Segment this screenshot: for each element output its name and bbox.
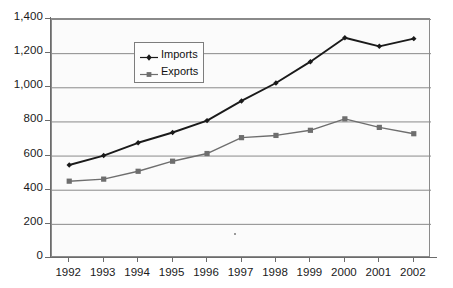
x-tick-mark — [241, 257, 242, 262]
stray-speck — [234, 233, 236, 235]
x-tick-mark — [68, 257, 69, 262]
x-tick-mark — [137, 257, 138, 262]
y-tick-mark — [45, 120, 51, 121]
x-tick-mark — [275, 257, 276, 262]
legend-item-exports[interactable]: Exports — [139, 63, 199, 80]
x-tick-mark — [103, 257, 104, 262]
x-tick-mark — [309, 257, 310, 262]
y-tick-mark — [45, 189, 51, 190]
legend-item-imports[interactable]: Imports — [139, 46, 199, 63]
chart-legend: Imports Exports — [134, 42, 204, 83]
y-tick-label: 400 — [0, 181, 43, 193]
y-tick-label: 1,200 — [0, 44, 43, 56]
x-tick-mark — [378, 257, 379, 262]
y-tick-mark — [45, 257, 51, 258]
y-tick-mark — [45, 86, 51, 87]
data-series-layer — [52, 19, 431, 258]
x-tick-mark — [172, 257, 173, 262]
x-tick-label: 2002 — [390, 266, 436, 278]
y-axis-line — [50, 17, 51, 258]
x-tick-mark — [206, 257, 207, 262]
x-tick-mark — [413, 257, 414, 262]
y-tick-label: 1,400 — [0, 10, 43, 22]
y-tick-label: 1,000 — [0, 78, 43, 90]
x-tick-mark — [344, 257, 345, 262]
legend-marker-exports-square-icon — [139, 66, 159, 77]
legend-label-exports: Exports — [161, 66, 198, 77]
y-tick-label: 200 — [0, 215, 43, 227]
legend-marker-imports-diamond-icon — [139, 49, 159, 60]
y-tick-label: 600 — [0, 147, 43, 159]
y-tick-label: 800 — [0, 112, 43, 124]
legend-label-imports: Imports — [161, 49, 198, 60]
y-tick-mark — [45, 223, 51, 224]
y-tick-label: 0 — [0, 249, 43, 261]
y-tick-mark — [45, 155, 51, 156]
y-tick-mark — [45, 52, 51, 53]
y-tick-mark — [45, 18, 51, 19]
line-chart: 02004006008001,0001,2001,400 19921993199… — [0, 0, 453, 288]
plot-area — [51, 18, 430, 257]
